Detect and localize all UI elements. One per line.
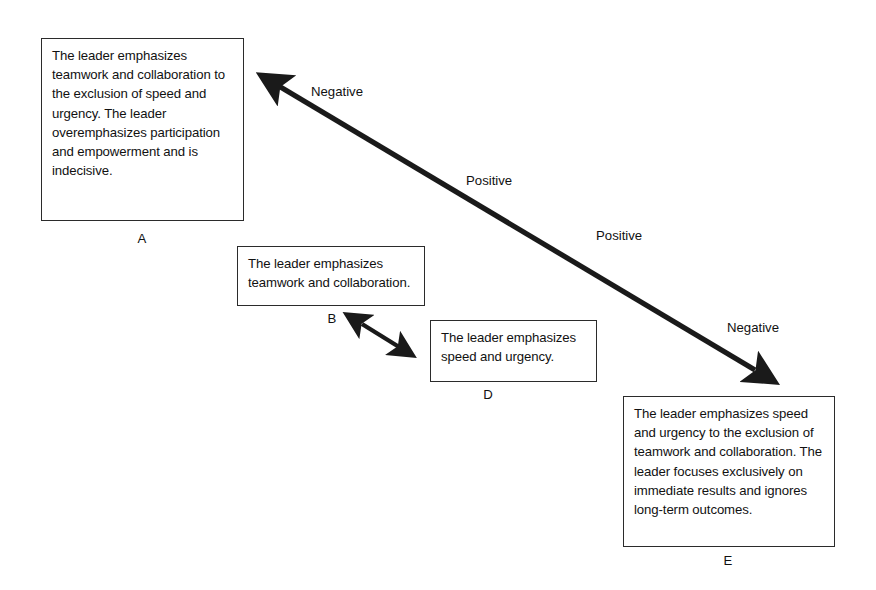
node-box-a: The leader emphasizes teamwork and colla… bbox=[41, 38, 244, 221]
node-box-e: The leader emphasizes speed and urgency … bbox=[623, 396, 835, 547]
node-label-a: A bbox=[102, 231, 182, 246]
node-label-b: B bbox=[292, 311, 372, 326]
edge-label-positive-lower: Positive bbox=[596, 228, 642, 243]
node-box-b: The leader emphasizes teamwork and colla… bbox=[237, 246, 425, 306]
node-label-e: E bbox=[688, 553, 768, 568]
node-label-d: D bbox=[448, 387, 528, 402]
edge-label-negative-top: Negative bbox=[311, 84, 363, 99]
node-box-d: The leader emphasizes speed and urgency. bbox=[430, 320, 597, 382]
edge-label-negative-bottom: Negative bbox=[727, 320, 779, 335]
b-d-connector-arrow bbox=[362, 324, 412, 355]
diagram-canvas: The leader emphasizes teamwork and colla… bbox=[0, 0, 876, 590]
edge-label-positive-mid: Positive bbox=[466, 173, 512, 188]
